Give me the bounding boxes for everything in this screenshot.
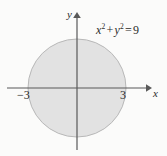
equation-equals-sign: = <box>124 23 133 37</box>
coordinate-plane-svg <box>0 0 167 156</box>
x-axis-label: x <box>153 88 158 99</box>
equation-value: 9 <box>133 23 139 37</box>
x-axis-arrowhead-icon <box>146 84 152 92</box>
y-axis-label: y <box>67 9 72 20</box>
x-tick-label-negative-3: −3 <box>17 89 30 101</box>
x-tick-label-positive-3: 3 <box>120 89 126 101</box>
graph-figure: x2+y2=9 x y −3 3 <box>0 0 167 156</box>
circle-equation-label: x2+y2=9 <box>96 24 139 36</box>
y-axis-arrowhead-icon <box>73 12 81 18</box>
